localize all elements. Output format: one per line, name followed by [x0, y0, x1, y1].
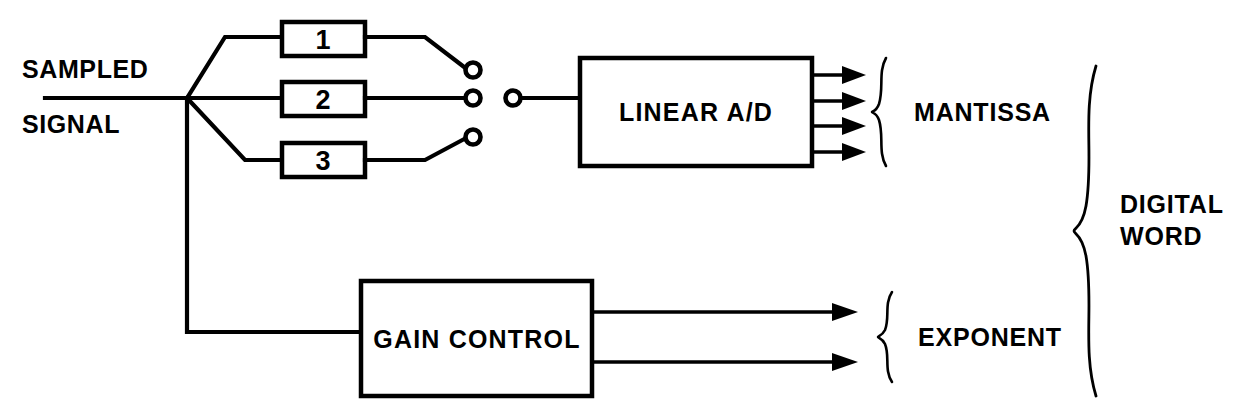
exponent-brace — [878, 292, 892, 382]
switch-pole-contact[interactable] — [506, 91, 521, 106]
mantissa-output-arrow-4 — [812, 143, 866, 161]
linear-adc-label: LINEAR A/D — [619, 98, 773, 126]
digital-word-label-line1: DIGITAL — [1120, 190, 1224, 218]
mantissa-brace — [872, 58, 886, 166]
amplifier-1-label: 1 — [315, 25, 330, 55]
amplifier-3-output-wire — [365, 137, 468, 160]
amplifier-2-label: 2 — [315, 85, 330, 115]
input-label-line1: SAMPLED — [22, 55, 148, 83]
branch-to-gain-control — [187, 98, 361, 332]
diagram-canvas: SAMPLED SIGNAL 1 2 3 LINEAR A/D GAIN CON… — [0, 0, 1250, 407]
exponent-output-arrow-1 — [592, 303, 858, 321]
input-label-line2: SIGNAL — [22, 110, 120, 138]
branch-to-amplifier-1 — [187, 37, 282, 98]
switch-contact-2[interactable] — [466, 91, 481, 106]
block-diagram-figure: SAMPLED SIGNAL 1 2 3 LINEAR A/D GAIN CON… — [0, 0, 1250, 407]
exponent-label: EXPONENT — [918, 323, 1062, 351]
mantissa-output-arrow-2 — [812, 92, 866, 110]
amplifier-3-label: 3 — [315, 146, 330, 176]
mantissa-output-arrow-1 — [812, 66, 866, 84]
digital-word-label-line2: WORD — [1120, 222, 1202, 250]
branch-to-amplifier-3 — [187, 98, 282, 160]
switch-contact-3[interactable] — [466, 130, 481, 145]
mantissa-label: MANTISSA — [914, 98, 1051, 126]
amplifier-1-output-wire — [365, 37, 468, 70]
exponent-output-arrow-2 — [592, 353, 858, 371]
switch-contact-1[interactable] — [466, 63, 481, 78]
digital-word-brace — [1074, 66, 1096, 396]
mantissa-output-arrow-3 — [812, 117, 866, 135]
gain-control-label: GAIN CONTROL — [373, 325, 580, 353]
